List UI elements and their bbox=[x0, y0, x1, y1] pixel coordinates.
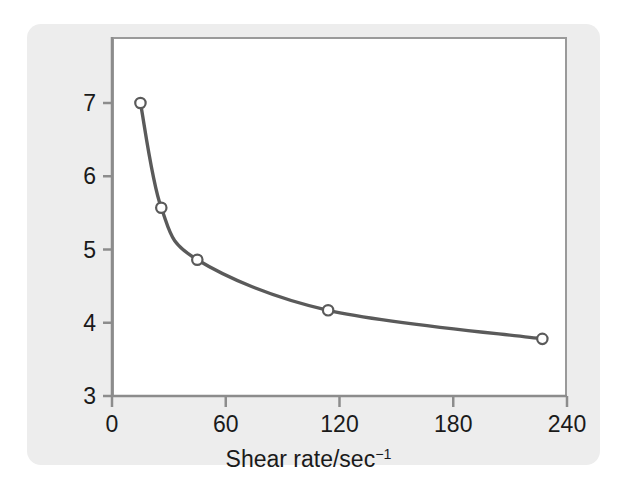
x-tick-label: 60 bbox=[213, 413, 239, 436]
y-tick-label: 7 bbox=[66, 92, 96, 115]
y-tick-label: 4 bbox=[66, 311, 96, 334]
x-tick-label: 240 bbox=[548, 413, 586, 436]
x-axis-title-base: Shear rate/sec bbox=[226, 446, 376, 472]
figure-root: 34567 060120180240 Viscosity (cp) Shear … bbox=[0, 0, 617, 488]
x-tick-label: 0 bbox=[106, 413, 119, 436]
x-axis-title: Shear rate/sec−1 bbox=[0, 446, 617, 473]
y-tick-label: 3 bbox=[66, 385, 96, 408]
x-axis-title-exponent: −1 bbox=[375, 446, 391, 462]
y-tick-label: 5 bbox=[66, 238, 96, 261]
x-tick-label: 180 bbox=[434, 413, 472, 436]
plot-panel bbox=[112, 37, 567, 397]
x-tick-label: 120 bbox=[320, 413, 358, 436]
y-tick-label: 6 bbox=[66, 165, 96, 188]
